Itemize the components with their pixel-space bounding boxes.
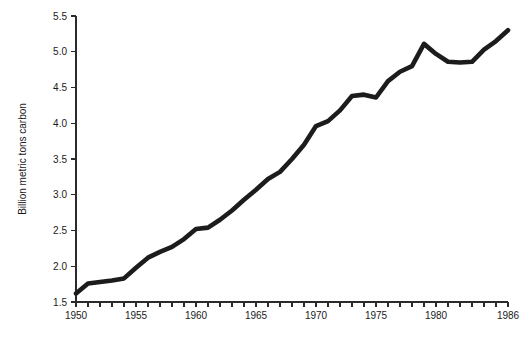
x-tick-label-1986: 1986 <box>497 310 520 321</box>
y-axis-title: Billion metric tons carbon <box>17 103 28 215</box>
y-tick-label-3.5: 3.5 <box>53 154 67 165</box>
y-tick-label-5.0: 5.0 <box>53 46 67 57</box>
x-tick-label-1965: 1965 <box>245 310 268 321</box>
x-tick-label-1980: 1980 <box>425 310 448 321</box>
y-axis-title-group: Billion metric tons carbon <box>17 103 28 215</box>
chart-container: 1.52.02.53.03.54.04.55.05.5 195019551960… <box>0 0 528 337</box>
x-tick-label-1975: 1975 <box>365 310 388 321</box>
x-axis-group: 19501955196019651970197519801986 <box>65 302 520 321</box>
emissions-line <box>76 30 508 293</box>
x-tick-label-1955: 1955 <box>125 310 148 321</box>
line-chart: 1.52.02.53.03.54.04.55.05.5 195019551960… <box>0 0 528 337</box>
y-tick-label-1.5: 1.5 <box>53 297 67 308</box>
y-axis-ticks: 1.52.02.53.03.54.04.55.05.5 <box>53 11 76 308</box>
x-tick-label-1950: 1950 <box>65 310 88 321</box>
x-tick-label-1960: 1960 <box>185 310 208 321</box>
y-tick-label-4.0: 4.0 <box>53 118 67 129</box>
y-tick-label-3.0: 3.0 <box>53 189 67 200</box>
x-tick-label-1970: 1970 <box>305 310 328 321</box>
y-tick-label-4.5: 4.5 <box>53 82 67 93</box>
y-tick-label-2.5: 2.5 <box>53 225 67 236</box>
y-tick-label-2.0: 2.0 <box>53 261 67 272</box>
x-axis-ticks: 19501955196019651970197519801986 <box>65 302 520 321</box>
series-group <box>76 30 508 293</box>
y-axis-group: 1.52.02.53.03.54.04.55.05.5 <box>53 11 76 308</box>
y-tick-label-5.5: 5.5 <box>53 11 67 22</box>
